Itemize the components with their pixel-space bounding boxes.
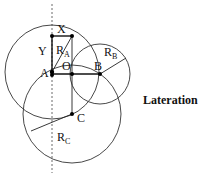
lateration-diagram: X Y A O B C RA RB RC Lateration (0, 0, 210, 178)
label-c: C (77, 111, 85, 125)
label-ra: RA (56, 43, 70, 59)
label-y: Y (38, 44, 47, 58)
label-rb: RB (104, 45, 117, 61)
point-a-lower (50, 73, 54, 77)
label-rc: RC (57, 130, 70, 146)
point-x-left (50, 34, 54, 38)
label-a: A (40, 66, 49, 80)
diagram-title: Lateration (143, 93, 198, 107)
point-c (70, 112, 74, 116)
label-x: X (57, 22, 66, 36)
label-b: B (94, 59, 102, 73)
point-x-right (70, 34, 74, 38)
label-o: O (62, 59, 71, 73)
